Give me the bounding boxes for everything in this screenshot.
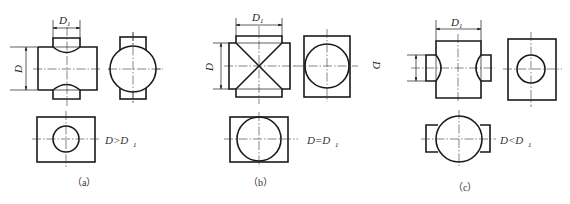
panel-c: D 1 D<D 1 （c） <box>407 16 562 193</box>
panel-b-front-view: D 1 D <box>203 11 296 104</box>
panel-a-front-view: D 1 D <box>10 14 101 106</box>
panel-c-caption: （c） <box>453 182 477 193</box>
panel-c-front-view: D 1 <box>407 16 495 103</box>
panel-c-d1-label: D <box>450 16 459 28</box>
panel-b: D 1 D D D=D 1 （b） <box>203 11 383 188</box>
panel-b-d-right-label: D <box>371 60 383 69</box>
panel-b-condition: D=D <box>306 134 330 146</box>
panel-a-d1-label: D <box>58 14 67 26</box>
panel-b-d-label: D <box>203 63 215 72</box>
panel-c-top-view <box>421 110 496 167</box>
panel-b-caption: （b） <box>248 177 273 188</box>
panel-a-condition-subscript: 1 <box>133 141 137 149</box>
panel-a-caption: （a） <box>72 177 96 188</box>
panel-c-d1-subscript: 1 <box>459 22 463 30</box>
panel-a-side-view <box>108 32 163 104</box>
panel-b-side-view: D <box>294 29 383 102</box>
panel-a: D 1 D D>D 1 （a） <box>10 14 163 188</box>
panel-a-top-view <box>32 111 101 168</box>
panel-a-d-label: D <box>12 65 24 74</box>
panel-b-top-view <box>224 112 298 167</box>
panel-b-condition-subscript: 1 <box>335 141 339 149</box>
cylinder-intersection-diagram: D 1 D D>D 1 （a） <box>0 0 570 204</box>
panel-b-d1-subscript: 1 <box>260 17 264 25</box>
panel-c-condition: D<D <box>499 134 523 146</box>
panel-c-side-view <box>503 32 562 107</box>
panel-c-condition-subscript: 1 <box>528 141 532 149</box>
panel-b-d1-label: D <box>251 11 260 23</box>
panel-a-condition: D>D <box>104 134 128 146</box>
panel-a-d1-subscript: 1 <box>67 20 71 28</box>
